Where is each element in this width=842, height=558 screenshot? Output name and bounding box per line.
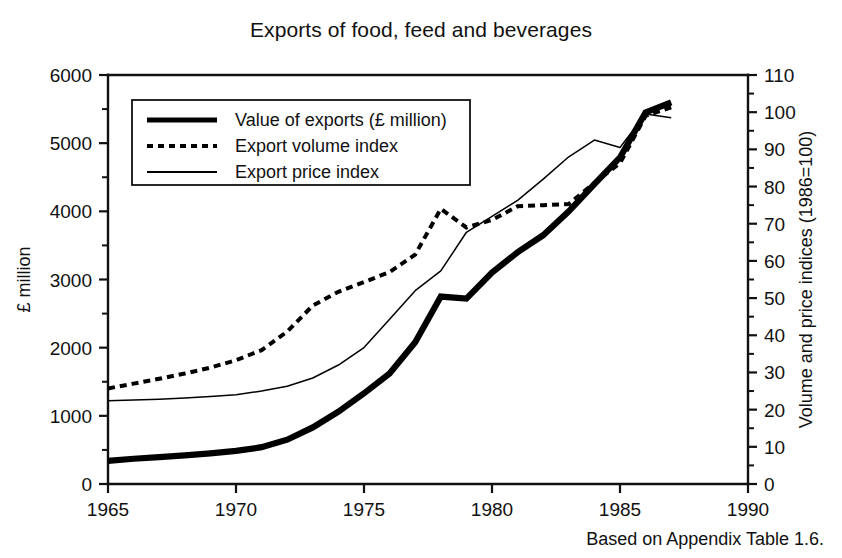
legend-label-price: Export price index — [235, 162, 379, 182]
y-left-tick-label: 1000 — [50, 406, 92, 427]
x-tick-label: 1980 — [471, 499, 513, 520]
chart-title: Exports of food, feed and beverages — [0, 18, 842, 42]
legend-layer: Value of exports (£ million)Export volum… — [132, 100, 470, 185]
legend-label-volume: Export volume index — [235, 136, 398, 156]
x-tick-label: 1965 — [87, 499, 129, 520]
y-left-tick-label: 0 — [81, 474, 92, 495]
y-right-tick-label: 90 — [764, 139, 785, 160]
y-left-tick-label: 5000 — [50, 133, 92, 154]
y-left-tick-label: 4000 — [50, 201, 92, 222]
y-right-axis-label: Volume and price indices (1986=100) — [796, 131, 816, 429]
y-left-tick-label: 2000 — [50, 338, 92, 359]
y-left-tick-label: 3000 — [50, 270, 92, 291]
y-left-axis-label: £ million — [14, 246, 34, 312]
y-right-tick-label: 40 — [764, 325, 785, 346]
y-right-tick-label: 100 — [764, 102, 796, 123]
y-right-tick-label: 10 — [764, 437, 785, 458]
y-right-tick-label: 80 — [764, 177, 785, 198]
chart-plot-area: 0100020003000400050006000010203040506070… — [0, 0, 842, 558]
y-right-tick-label: 110 — [764, 65, 794, 86]
y-left-tick-label: 6000 — [50, 65, 92, 86]
y-right-tick-label: 30 — [764, 362, 785, 383]
x-tick-label: 1985 — [599, 499, 641, 520]
x-tick-label: 1970 — [215, 499, 257, 520]
y-right-tick-label: 60 — [764, 251, 785, 272]
y-right-tick-label: 0 — [764, 474, 775, 495]
x-tick-label: 1990 — [727, 499, 769, 520]
x-tick-label: 1975 — [343, 499, 385, 520]
y-right-tick-label: 20 — [764, 400, 785, 421]
chart-figure: Exports of food, feed and beverages 0100… — [0, 0, 842, 558]
y-right-tick-label: 50 — [764, 288, 785, 309]
y-right-tick-label: 70 — [764, 214, 785, 235]
source-footnote: Based on Appendix Table 1.6. — [586, 529, 824, 550]
legend-label-value: Value of exports (£ million) — [235, 110, 447, 130]
